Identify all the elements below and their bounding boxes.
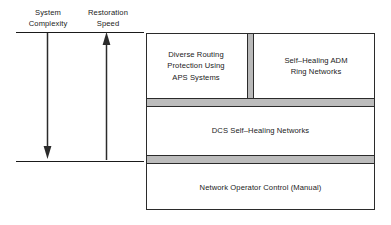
- axis-label-restoration-speed: Restoration Speed: [72, 8, 144, 29]
- separator-band-lower: [147, 155, 374, 164]
- tier-top-protection: Diverse Routing Protection Using APS Sys…: [147, 34, 374, 98]
- separator-band-upper: [147, 98, 374, 107]
- upward-arrow-icon: [97, 30, 117, 160]
- tier-operator-label: Network Operator Control (Manual): [200, 182, 322, 194]
- survivability-hierarchy-diagram: System Complexity Restoration Speed Dive…: [0, 0, 391, 225]
- tier-cell-aps-label: Diverse Routing Protection Using APS Sys…: [167, 49, 224, 84]
- baseline-rule: [16, 161, 144, 163]
- tier-cell-adm-rings: Self–Healing ADM Ring Networks: [254, 34, 374, 98]
- vertical-divider: [247, 34, 254, 98]
- tier-dcs-label: DCS Self–Healing Networks: [212, 125, 309, 137]
- downward-arrow-icon: [38, 33, 58, 160]
- tier-cell-aps-systems: Diverse Routing Protection Using APS Sys…: [147, 34, 247, 98]
- tier-cell-adm-label: Self–Healing ADM Ring Networks: [284, 55, 347, 78]
- tier-network-operator-control: Network Operator Control (Manual): [147, 164, 374, 211]
- hierarchy-stack: Diverse Routing Protection Using APS Sys…: [146, 33, 375, 210]
- tier-dcs-networks: DCS Self–Healing Networks: [147, 107, 374, 155]
